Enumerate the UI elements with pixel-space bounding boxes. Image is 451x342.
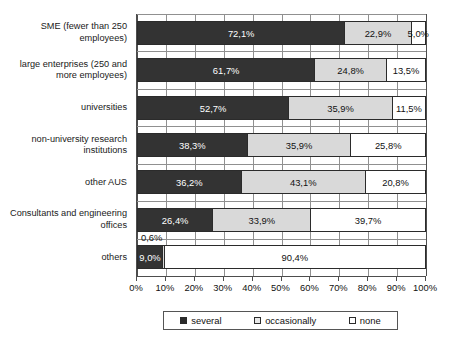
x-axis-tick: [281, 276, 282, 281]
category-label-others: others: [0, 252, 127, 263]
x-axis-tick-label: 80%: [358, 282, 377, 293]
bar-row: 9,0% 0,6% 90,4%: [137, 245, 426, 269]
bar-value-callout-occasionally-others: 0,6%: [141, 232, 162, 243]
bar-value-occasionally: 35,9%: [286, 140, 313, 151]
chart-legend: several occasionally none: [163, 311, 398, 330]
row-separator: [137, 201, 426, 202]
legend-item-none: none: [349, 315, 381, 326]
bar-value-none: 11,5%: [396, 103, 422, 114]
bar-value-occasionally: 24,8%: [337, 65, 364, 76]
bar-value-none: 13,5%: [393, 65, 420, 76]
bar-segment-occasionally: 43,1%: [242, 170, 366, 194]
bar-segment-occasionally: 35,9%: [289, 96, 393, 120]
bar-value-occasionally: 22,9%: [365, 28, 392, 39]
bar-segment-none: 25,8%: [351, 133, 426, 157]
category-label-sme: SME (fewer than 250 employees): [0, 21, 127, 44]
bar-row: 26,4% 33,9% 39,7%: [137, 208, 426, 232]
x-axis-tick-label: 30%: [213, 282, 232, 293]
legend-item-several: several: [180, 315, 221, 326]
legend-swatch-several-icon: [180, 317, 187, 324]
x-axis-tick: [425, 276, 426, 281]
row-separator: [137, 126, 426, 127]
bar-segment-occasionally: 24,8%: [315, 58, 387, 82]
x-axis-tick: [194, 276, 195, 281]
bar-value-several: 9,0%: [139, 252, 160, 263]
x-axis-tick-label: 10%: [156, 282, 175, 293]
category-label-non-university-research: non-university research institutions: [0, 134, 127, 157]
bar-value-several: 38,3%: [179, 140, 206, 151]
bar-segment-several: 72,1%: [137, 21, 345, 45]
bar-segment-several: 36,2%: [137, 170, 242, 194]
stacked-bar-chart: SME (fewer than 250 employees) large ent…: [0, 0, 451, 342]
bar-row: 72,1% 22,9% 5,0%: [137, 21, 426, 45]
row-separator: [137, 14, 426, 15]
legend-item-occasionally: occasionally: [254, 315, 316, 326]
legend-label-several: several: [191, 315, 221, 326]
bar-segment-occasionally: 35,9%: [248, 133, 352, 157]
bar-segment-none: 11,5%: [393, 96, 426, 120]
bar-row: 36,2% 43,1% 20,8%: [137, 170, 426, 194]
row-separator: [137, 164, 426, 165]
category-label-consultants: Consultants and engineering offices: [0, 208, 127, 231]
bar-segment-several: 26,4%: [137, 208, 213, 232]
bar-value-none: 5,0%: [408, 28, 429, 39]
row-separator: [137, 89, 426, 90]
bar-value-several: 61,7%: [213, 65, 240, 76]
x-axis-tick: [136, 276, 137, 281]
x-axis-tick: [165, 276, 166, 281]
bar-segment-none: 13,5%: [387, 58, 426, 82]
x-axis-tick: [309, 276, 310, 281]
bar-segment-several: 9,0%: [137, 245, 163, 269]
x-axis-tick-label: 40%: [242, 282, 261, 293]
plot-area: 72,1% 22,9% 5,0% 61,7% 24,8% 13,5% 52,7%…: [136, 14, 427, 276]
bar-segment-none: 39,7%: [311, 208, 426, 232]
row-separator: [137, 51, 426, 52]
x-axis-tick-label: 20%: [184, 282, 203, 293]
x-axis-tick-label: 90%: [387, 282, 406, 293]
bar-row: 38,3% 35,9% 25,8%: [137, 133, 426, 157]
bar-value-occasionally: 35,9%: [327, 103, 354, 114]
x-axis-tick-label: 0%: [129, 282, 143, 293]
category-label-other-aus: other AUS: [0, 177, 127, 188]
bar-value-none: 39,7%: [355, 215, 382, 226]
bar-segment-occasionally: 22,9%: [345, 21, 411, 45]
x-axis-tick-label: 50%: [271, 282, 290, 293]
x-axis-tick-label: 100%: [413, 282, 437, 293]
x-axis-tick: [338, 276, 339, 281]
bar-value-none: 20,8%: [382, 177, 409, 188]
legend-swatch-occasionally-icon: [254, 317, 261, 324]
bar-value-occasionally: 43,1%: [290, 177, 317, 188]
bar-value-several: 52,7%: [200, 103, 227, 114]
bar-value-several: 72,1%: [228, 28, 255, 39]
category-label-universities: universities: [0, 102, 127, 113]
legend-label-occasionally: occasionally: [265, 315, 316, 326]
category-axis-labels: SME (fewer than 250 employees) large ent…: [0, 14, 131, 276]
legend-swatch-none-icon: [349, 317, 356, 324]
bar-segment-several: 38,3%: [137, 133, 248, 157]
bar-segment-occasionally: 33,9%: [213, 208, 311, 232]
bar-segment-several: 61,7%: [137, 58, 315, 82]
x-axis-tick: [252, 276, 253, 281]
x-axis-tick: [223, 276, 224, 281]
bar-segment-none: 20,8%: [366, 170, 426, 194]
bar-value-several: 36,2%: [176, 177, 203, 188]
x-axis-tick: [367, 276, 368, 281]
x-axis-tick: [396, 276, 397, 281]
bar-segment-several: 52,7%: [137, 96, 289, 120]
bar-value-none: 90,4%: [282, 252, 309, 263]
category-label-large-enterprises: large enterprises (250 and more employee…: [0, 59, 127, 82]
bar-segment-none: 90,4%: [165, 245, 426, 269]
bar-row: 61,7% 24,8% 13,5%: [137, 58, 426, 82]
bar-segment-none: 5,0%: [412, 21, 426, 45]
bar-value-none: 25,8%: [375, 140, 402, 151]
x-axis-tick-label: 60%: [300, 282, 319, 293]
legend-label-none: none: [360, 315, 381, 326]
x-axis-tick-label: 70%: [329, 282, 348, 293]
gridline: [426, 14, 427, 276]
bar-value-several: 26,4%: [162, 215, 189, 226]
bar-value-occasionally: 33,9%: [248, 215, 275, 226]
bar-row: 52,7% 35,9% 11,5%: [137, 96, 426, 120]
row-separator: [137, 239, 426, 240]
